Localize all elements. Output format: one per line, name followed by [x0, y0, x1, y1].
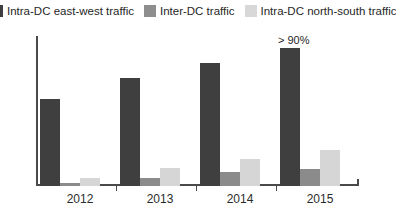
- legend-label-intra-dc-east-west: Intra-DC east-west traffic: [7, 5, 134, 17]
- legend-swatch-inter-dc: [144, 5, 156, 17]
- x-axis-label-2012: 2012: [40, 192, 120, 206]
- y-axis-line: [36, 36, 38, 186]
- bar-2014-intra-dc-east-west[interactable]: [200, 63, 220, 186]
- bar-2015-intra-dc-north-south[interactable]: [320, 150, 340, 186]
- bar-2013-inter-dc[interactable]: [140, 178, 160, 186]
- bar-chart-plot: > 90% 2012 2013 2014 2015: [0, 20, 380, 223]
- x-axis-tick: [116, 186, 117, 191]
- legend-item-intra-dc-north-south: Intra-DC north-south traffic: [245, 2, 396, 20]
- legend-label-intra-dc-north-south: Intra-DC north-south traffic: [261, 5, 396, 17]
- legend-swatch-intra-dc-east-west: [0, 5, 3, 17]
- legend-label-inter-dc: Inter-DC traffic: [160, 5, 235, 17]
- bar-group-bars: [280, 36, 360, 186]
- x-axis-label-2014: 2014: [200, 192, 280, 206]
- bar-group-2012: [40, 36, 120, 186]
- bar-group-2015: > 90%: [280, 36, 360, 186]
- bar-group-bars: [40, 36, 120, 186]
- legend-swatch-intra-dc-north-south: [245, 5, 257, 17]
- bar-2013-intra-dc-east-west[interactable]: [120, 78, 140, 186]
- x-axis-tick: [196, 186, 197, 191]
- bar-2015-inter-dc[interactable]: [300, 169, 320, 186]
- legend-item-inter-dc: Inter-DC traffic: [144, 2, 235, 20]
- legend-item-intra-dc-east-west: Intra-DC east-west traffic: [0, 2, 134, 20]
- bar-2015-intra-dc-east-west[interactable]: [280, 48, 300, 186]
- bar-2014-inter-dc[interactable]: [220, 172, 240, 186]
- bar-group-2014: [200, 36, 280, 186]
- x-axis-tick: [276, 186, 277, 191]
- bar-group-2013: [120, 36, 200, 186]
- bar-2014-intra-dc-north-south[interactable]: [240, 159, 260, 186]
- chart-legend: Intra-DC east-west traffic Inter-DC traf…: [0, 2, 380, 20]
- bar-group-bars: [120, 36, 200, 186]
- bar-2013-intra-dc-north-south[interactable]: [160, 168, 180, 186]
- bar-2012-intra-dc-north-south[interactable]: [80, 178, 100, 186]
- bar-2012-inter-dc[interactable]: [60, 183, 80, 186]
- x-axis-label-2013: 2013: [120, 192, 200, 206]
- x-axis-label-2015: 2015: [280, 192, 360, 206]
- bar-group-bars: [200, 36, 280, 186]
- bar-2012-intra-dc-east-west[interactable]: [40, 99, 60, 186]
